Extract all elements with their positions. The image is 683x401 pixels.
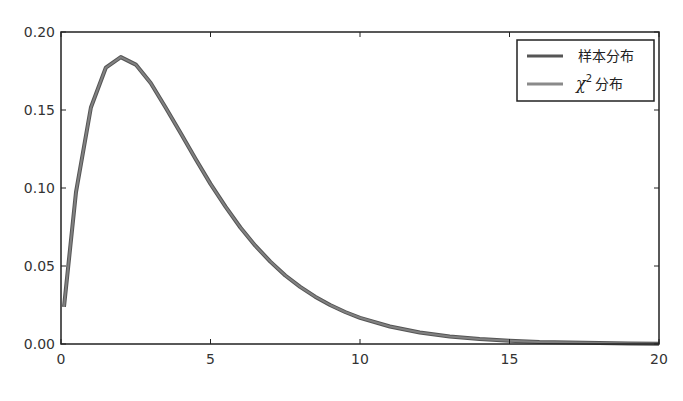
legend-chi-sup: 2 (586, 73, 592, 84)
x-tick-label: 10 (351, 351, 369, 367)
y-tick-label: 0.20 (24, 24, 55, 40)
x-tick-label: 20 (650, 351, 668, 367)
y-tick-label: 0.10 (24, 180, 55, 196)
y-tick-label: 0.05 (24, 258, 55, 274)
x-tick-label: 0 (57, 351, 66, 367)
x-tick-label: 5 (206, 351, 215, 367)
x-tick-label: 15 (501, 351, 519, 367)
y-tick-label: 0.00 (24, 336, 55, 352)
y-tick-label: 0.15 (24, 102, 55, 118)
legend-chi-rest: 分布 (595, 76, 623, 92)
legend: 样本分布 χ2分布 (517, 40, 654, 101)
chart: 05101520 0.000.050.100.150.20 样本分布 χ2分布 (0, 0, 683, 401)
legend-label-chi2: χ2分布 (575, 73, 623, 93)
legend-label-sample: 样本分布 (578, 48, 634, 64)
